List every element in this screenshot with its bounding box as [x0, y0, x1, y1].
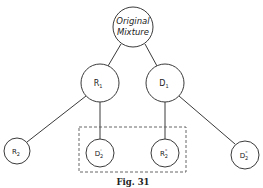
- tree-diagram: Original Mixture R1 D1 R2 D2' R2" D2" Fi…: [0, 0, 263, 188]
- edge-d1-d2pp: [179, 96, 235, 144]
- node-r1: R1: [81, 64, 119, 102]
- node-d2-prime: D2': [86, 139, 114, 167]
- root-label-line2: Mixture: [117, 27, 149, 37]
- svg-text:D2": D2": [240, 150, 249, 161]
- node-r2: R2: [4, 138, 30, 164]
- node-sub: 1: [99, 83, 102, 89]
- node-sup: ': [100, 148, 101, 154]
- edge-r1-r2: [27, 96, 86, 142]
- edge-original-r1: [108, 44, 121, 66]
- node-r2-double-prime: R2": [151, 139, 179, 167]
- node-d2-double-prime: D2": [231, 141, 259, 169]
- figure-caption: Fig. 31: [117, 177, 150, 187]
- node-sub: 1: [165, 83, 168, 89]
- node-sup: ": [165, 148, 167, 154]
- node-original-mixture: Original Mixture: [113, 7, 153, 47]
- svg-text:R2": R2": [160, 148, 168, 159]
- node-sup: ": [245, 150, 247, 156]
- root-label-line1: Original: [116, 16, 150, 26]
- node-d1: D1: [146, 64, 184, 102]
- node-sub: 2: [17, 151, 20, 157]
- edge-original-d1: [145, 44, 157, 66]
